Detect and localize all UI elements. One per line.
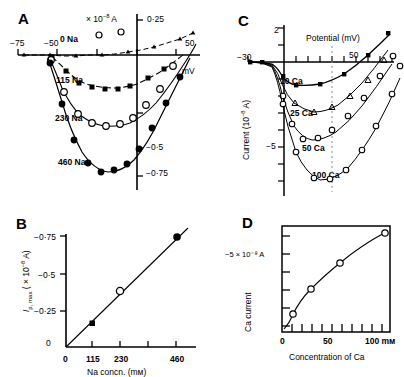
panel-d-plot <box>204 196 404 377</box>
panel-c-series-100ca <box>250 62 403 182</box>
panel-a: A × 10−8 A −75 −50 50 0·25 −0·5 −0·75 mV… <box>0 0 204 190</box>
panel-c-plot <box>204 0 404 196</box>
panel-d: D −5 × 10⁻⁸ A Ca current 0 50 100 mᴍ Con… <box>204 196 404 377</box>
panel-d-y-ticks <box>282 236 290 326</box>
panel-a-series-460na <box>47 58 190 175</box>
panel-d-x-ticks <box>292 324 382 332</box>
panel-b-axes <box>66 234 196 347</box>
panel-b-x-ticks <box>92 341 176 347</box>
panel-a-axes <box>18 14 200 190</box>
panel-c: C 2 −5 −30 50 Potential (mV) Current (10… <box>204 0 404 196</box>
panel-b: B Ip, max ( × 10−8 A) −0·75 −0·5 −0·25 0… <box>0 190 204 377</box>
panel-a-plot <box>0 0 204 190</box>
panel-a-series-230na <box>48 44 196 129</box>
panel-d-data-points <box>290 230 388 317</box>
panel-a-x-ticks <box>18 49 176 55</box>
panel-a-series-0na <box>22 29 196 58</box>
panel-b-fit-line <box>66 228 188 347</box>
panel-a-series-115na <box>50 54 185 92</box>
panel-b-plot <box>0 190 204 377</box>
panel-d-frame <box>282 226 390 332</box>
panel-b-y-ticks <box>60 236 66 311</box>
panel-d-curve <box>284 232 386 329</box>
